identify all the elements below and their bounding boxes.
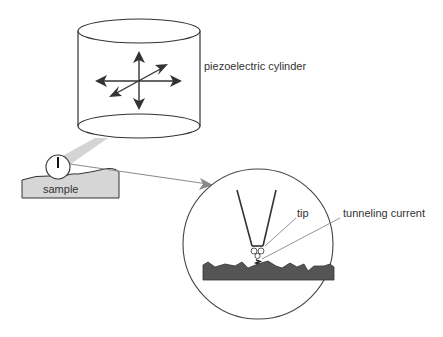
sample-label: sample <box>43 183 78 195</box>
tunneling-current-label: tunneling current <box>343 207 425 219</box>
movement-arrows-icon <box>95 51 182 110</box>
cylinder-label: piezoelectric cylinder <box>204 60 306 72</box>
tip-label: tip <box>297 207 309 219</box>
magnified-view <box>183 169 333 319</box>
stm-diagram <box>0 0 443 337</box>
